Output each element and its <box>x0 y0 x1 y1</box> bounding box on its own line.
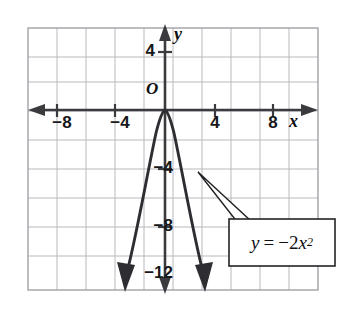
y-tick-label--12: −12 <box>128 263 173 283</box>
y-tick-label-4: 4 <box>131 41 155 61</box>
y-tick-label--4: −4 <box>139 158 173 178</box>
equation-left-side: y <box>251 232 259 254</box>
y-axis-top-arrowhead <box>159 24 171 41</box>
origin-label: O <box>146 79 158 99</box>
x-tick-label-4: 4 <box>203 113 227 133</box>
y-axis-name: y <box>174 24 182 45</box>
x-axis-left-arrowhead <box>28 104 45 116</box>
equation-label: y = −2 x 2 <box>229 219 335 266</box>
x-tick-label--8: −8 <box>45 113 79 133</box>
coordinate-plane <box>0 0 357 318</box>
x-tick-label--4: −4 <box>103 113 137 133</box>
y-tick-label--8: −8 <box>139 216 173 236</box>
x-axis-right-arrowhead <box>301 104 318 116</box>
equation-coefficient: −2 <box>278 232 298 254</box>
parabola-right-arrowhead <box>195 262 213 292</box>
equation-variable: x <box>298 232 306 254</box>
parabola-figure: −8 −4 4 8 4 −4 −8 −12 x y O y = −2 x 2 <box>0 0 357 318</box>
x-tick-label-8: 8 <box>261 113 285 133</box>
equation-exponent: 2 <box>307 235 313 250</box>
x-axis-name: x <box>289 111 298 132</box>
equation-equals-sign: = <box>264 232 275 254</box>
